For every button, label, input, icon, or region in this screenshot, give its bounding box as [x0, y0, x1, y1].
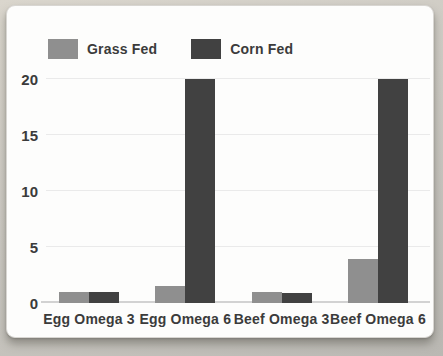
y-tick-label-10: 10	[2, 184, 38, 199]
legend-label-corn-fed: Corn Fed	[230, 41, 293, 57]
legend-item-corn-fed: Corn Fed	[191, 39, 293, 59]
bar-group-beef-omega-6: Beef Omega 6	[348, 79, 408, 303]
bar-groups: Egg Omega 3Egg Omega 6Beef Omega 3Beef O…	[59, 79, 408, 303]
bar-group-egg-omega-6: Egg Omega 6	[155, 79, 215, 303]
bar-grass-fed-egg-omega-3	[59, 292, 89, 303]
bar-group-beef-omega-3: Beef Omega 3	[252, 292, 312, 303]
bar-corn-fed-egg-omega-3	[89, 292, 119, 303]
y-tick-label-0: 0	[2, 296, 38, 311]
bar-grass-fed-beef-omega-6	[348, 259, 378, 303]
category-label-egg-omega-6: Egg Omega 6	[139, 311, 231, 327]
y-tick-label-15: 15	[2, 128, 38, 143]
bar-grass-fed-egg-omega-6	[155, 286, 185, 303]
bar-corn-fed-beef-omega-3	[282, 293, 312, 303]
grass-fed-swatch-icon	[48, 39, 78, 59]
category-label-beef-omega-3: Beef Omega 3	[234, 311, 330, 327]
corn-fed-swatch-icon	[191, 39, 221, 59]
plot-area: 05101520 Egg Omega 3Egg Omega 6Beef Omeg…	[46, 79, 430, 303]
bar-grass-fed-beef-omega-3	[252, 292, 282, 303]
legend-item-grass-fed: Grass Fed	[48, 39, 157, 59]
category-label-egg-omega-3: Egg Omega 3	[43, 311, 135, 327]
bar-corn-fed-egg-omega-6	[185, 79, 215, 303]
y-tick-label-20: 20	[2, 72, 38, 87]
legend-label-grass-fed: Grass Fed	[87, 41, 157, 57]
chart-card: Grass Fed Corn Fed 05101520 Egg Omega 3E…	[6, 5, 434, 338]
bar-group-egg-omega-3: Egg Omega 3	[59, 292, 119, 303]
bar-corn-fed-beef-omega-6	[378, 79, 408, 303]
chart-legend: Grass Fed Corn Fed	[48, 39, 293, 59]
category-label-beef-omega-6: Beef Omega 6	[330, 311, 426, 327]
y-tick-label-5: 5	[2, 240, 38, 255]
